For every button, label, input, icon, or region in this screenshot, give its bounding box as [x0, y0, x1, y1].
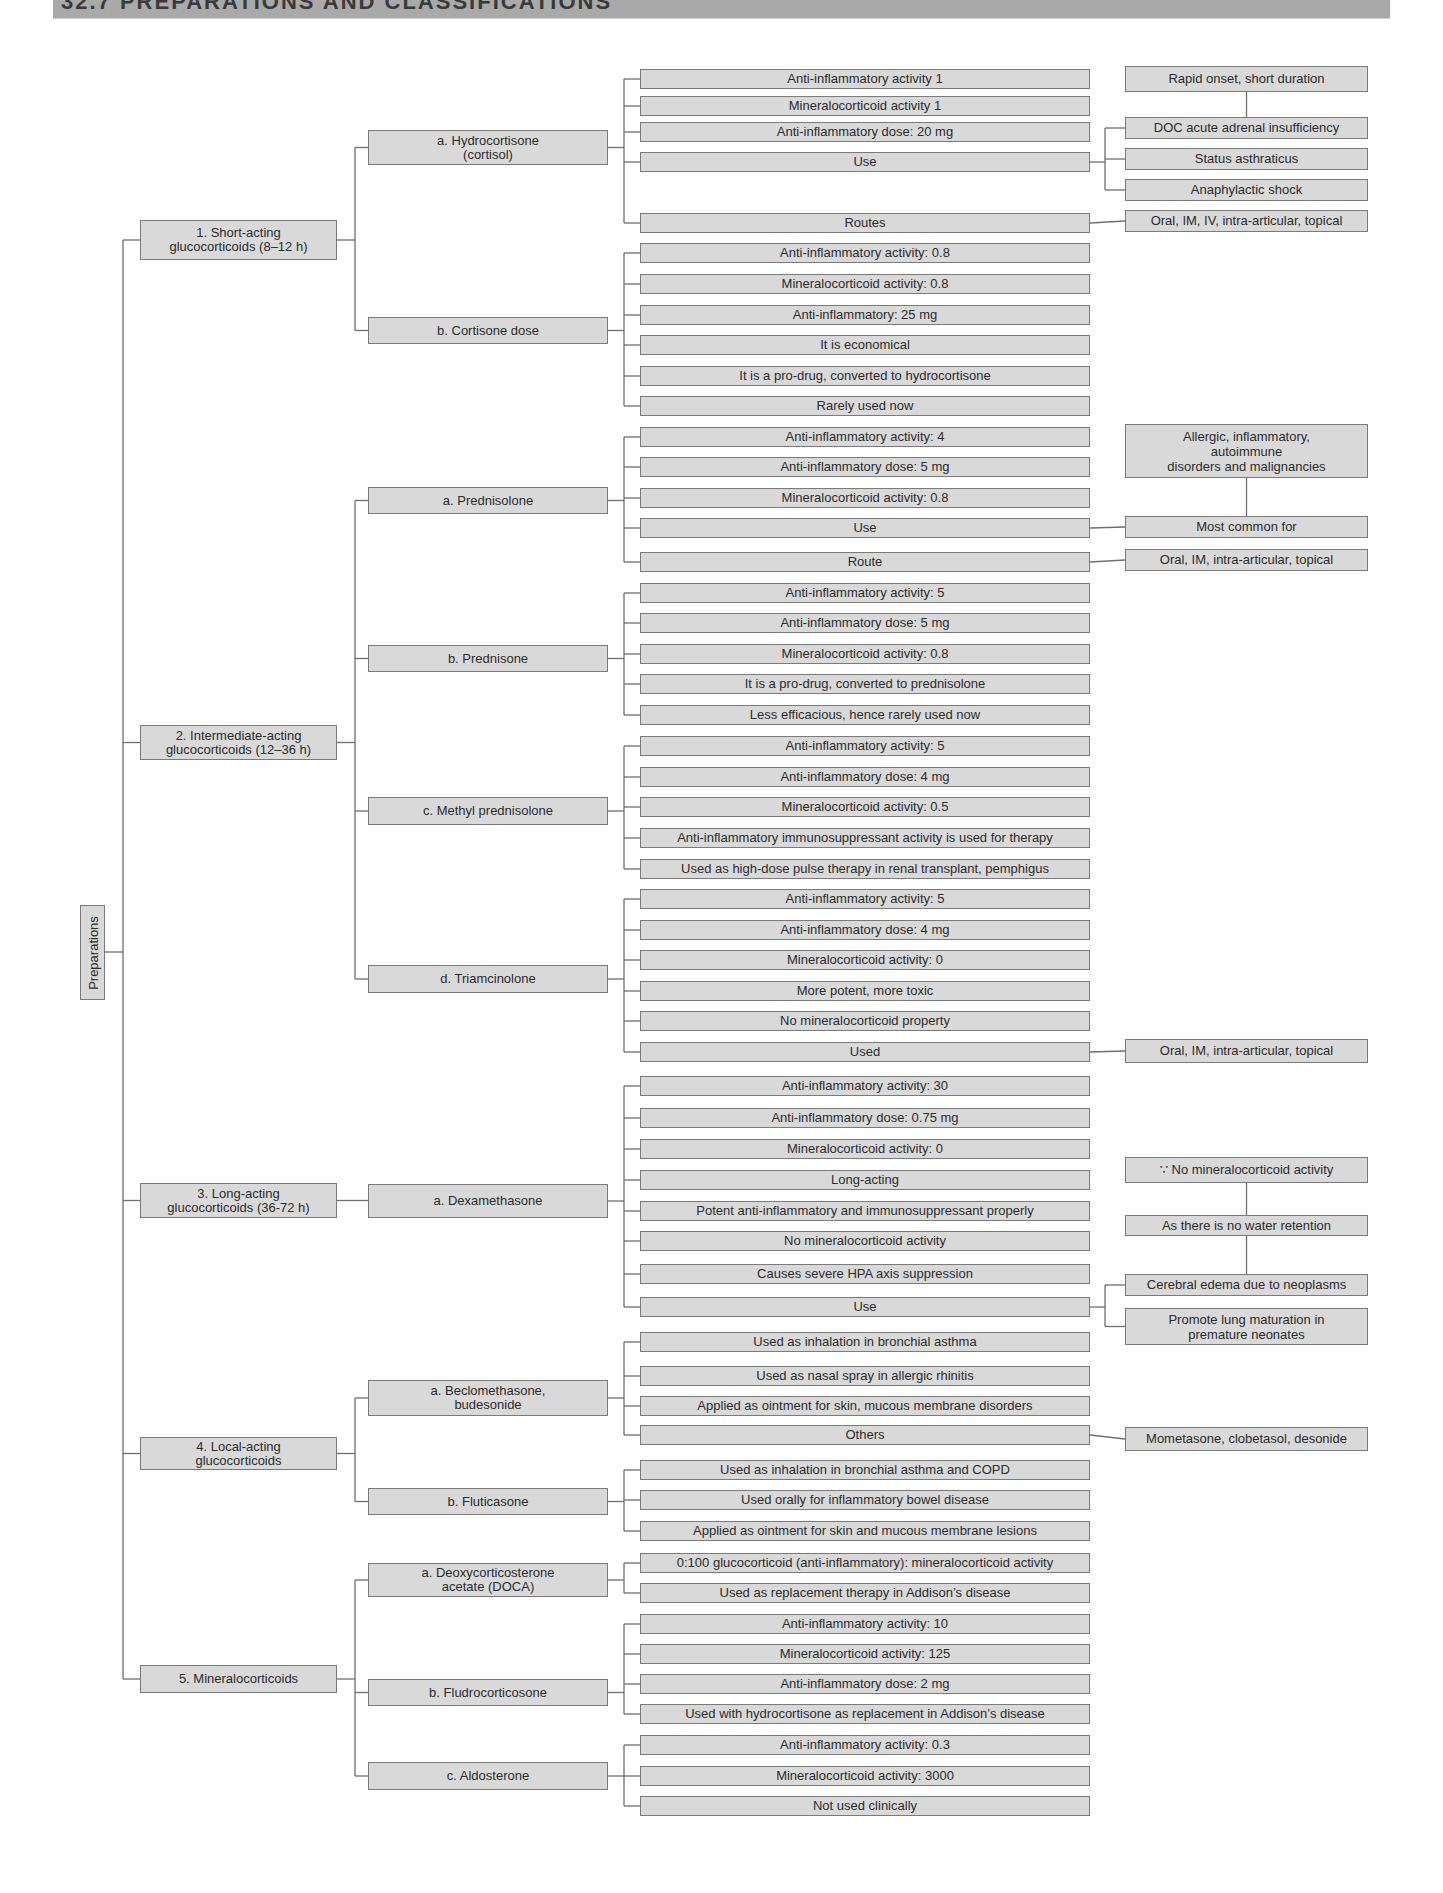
property-box: Use: [640, 152, 1090, 172]
property-box: Used: [640, 1042, 1090, 1062]
property-box: Less efficacious, hence rarely used now: [640, 705, 1090, 725]
property-box: Used as replacement therapy in Addison’s…: [640, 1583, 1090, 1603]
connector: [1090, 1435, 1125, 1439]
drug-box: b. Cortisone dose: [368, 317, 608, 344]
property-box: Long-acting: [640, 1170, 1090, 1190]
property-box: No mineralocorticoid property: [640, 1011, 1090, 1031]
property-box: Anti-inflammatory dose: 4 mg: [640, 767, 1090, 787]
property-box: Mineralocorticoid activity: 0.8: [640, 274, 1090, 294]
property-box: Anti-inflammatory dose: 4 mg: [640, 920, 1090, 940]
property-box: Mineralocorticoid activity: 3000: [640, 1766, 1090, 1786]
property-box: Mineralocorticoid activity: 0: [640, 1139, 1090, 1159]
drug-box: a. Beclomethasone, budesonide: [368, 1380, 608, 1416]
property-box: Causes severe HPA axis suppression: [640, 1264, 1090, 1284]
property-box: Anti-inflammatory activity: 4: [640, 427, 1090, 447]
note-box: Oral, IM, intra-articular, topical: [1125, 1039, 1368, 1063]
property-box: Used as inhalation in bronchial asthma: [640, 1332, 1090, 1352]
property-box: Anti-inflammatory activity: 0.3: [640, 1735, 1090, 1755]
note-box: Status asthraticus: [1125, 148, 1368, 170]
note-box: DOC acute adrenal insufficiency: [1125, 117, 1368, 139]
connector: [1090, 1051, 1125, 1052]
property-box: It is a pro-drug, converted to prednisol…: [640, 674, 1090, 694]
note-box: As there is no water retention: [1125, 1215, 1368, 1236]
drug-box: a. Dexamethasone: [368, 1184, 608, 1218]
property-box: Used with hydrocortisone as replacement …: [640, 1704, 1090, 1724]
drug-box: b. Fludrocorticosone: [368, 1679, 608, 1706]
note-box: Oral, IM, intra-articular, topical: [1125, 549, 1368, 571]
property-box: No mineralocorticoid activity: [640, 1231, 1090, 1251]
property-box: Route: [640, 552, 1090, 572]
property-box: Rarely used now: [640, 396, 1090, 416]
property-box: Anti-inflammatory activity: 5: [640, 583, 1090, 603]
property-box: Anti-inflammatory dose: 2 mg: [640, 1674, 1090, 1694]
group-box-3: 3. Long-acting glucocorticoids (36-72 h): [140, 1183, 337, 1218]
property-box: 0:100 glucocorticoid (anti-inflammatory)…: [640, 1553, 1090, 1573]
group-box-2: 2. Intermediate-acting glucocorticoids (…: [140, 725, 337, 760]
note-box: Anaphylactic shock: [1125, 179, 1368, 201]
property-box: Potent anti-inflammatory and immunosuppr…: [640, 1201, 1090, 1221]
property-box: Applied as ointment for skin, mucous mem…: [640, 1396, 1090, 1416]
property-box: It is economical: [640, 335, 1090, 355]
property-box: Mineralocorticoid activity: 0.8: [640, 644, 1090, 664]
note-box: Cerebral edema due to neoplasms: [1125, 1274, 1368, 1296]
note-box: Rapid onset, short duration: [1125, 66, 1368, 92]
property-box: Used as high-dose pulse therapy in renal…: [640, 859, 1090, 879]
note-box: Allergic, inflammatory, autoimmune disor…: [1125, 424, 1368, 478]
property-box: Mineralocorticoid activity: 0.8: [640, 488, 1090, 508]
property-box: Others: [640, 1425, 1090, 1445]
property-box: Anti-inflammatory activity: 10: [640, 1614, 1090, 1634]
property-box: Used as nasal spray in allergic rhinitis: [640, 1366, 1090, 1386]
drug-box: b. Fluticasone: [368, 1488, 608, 1515]
property-box: Used as inhalation in bronchial asthma a…: [640, 1460, 1090, 1480]
group-box-4: 4. Local-acting glucocorticoids: [140, 1437, 337, 1470]
property-box: Mineralocorticoid activity 1: [640, 96, 1090, 116]
property-box: Anti-inflammatory: 25 mg: [640, 305, 1090, 325]
property-box: Anti-inflammatory dose: 5 mg: [640, 457, 1090, 477]
property-box: Not used clinically: [640, 1796, 1090, 1816]
property-box: Use: [640, 518, 1090, 538]
property-box: Mineralocorticoid activity: 125: [640, 1644, 1090, 1664]
connector: [1090, 527, 1125, 528]
drug-box: a. Deoxycorticosterone acetate (DOCA): [368, 1563, 608, 1597]
property-box: Routes: [640, 213, 1090, 233]
connector: [1090, 560, 1125, 562]
drug-box: b. Prednisone: [368, 645, 608, 672]
property-box: Use: [640, 1297, 1090, 1317]
drug-box: a. Hydrocortisone (cortisol): [368, 130, 608, 165]
root-label: Preparations: [85, 916, 100, 990]
drug-box: c. Methyl prednisolone: [368, 797, 608, 825]
note-box: Promote lung maturation in premature neo…: [1125, 1308, 1368, 1345]
drug-box: a. Prednisolone: [368, 487, 608, 514]
property-box: Mineralocorticoid activity: 0: [640, 950, 1090, 970]
note-box: ∵ No mineralocorticoid activity: [1125, 1157, 1368, 1183]
property-box: Anti-inflammatory dose: 0.75 mg: [640, 1108, 1090, 1128]
property-box: Applied as ointment for skin and mucous …: [640, 1521, 1090, 1541]
note-box: Most common for: [1125, 516, 1368, 538]
note-box: Oral, IM, IV, intra-articular, topical: [1125, 210, 1368, 232]
property-box: Anti-inflammatory immunosuppressant acti…: [640, 828, 1090, 848]
group-box-1: 1. Short-acting glucocorticoids (8–12 h): [140, 220, 337, 260]
property-box: Anti-inflammatory activity: 30: [640, 1076, 1090, 1096]
property-box: Anti-inflammatory dose: 20 mg: [640, 122, 1090, 142]
group-box-5: 5. Mineralocorticoids: [140, 1665, 337, 1693]
connector: [1090, 221, 1125, 223]
property-box: Used orally for inflammatory bowel disea…: [640, 1490, 1090, 1510]
property-box: Anti-inflammatory activity 1: [640, 69, 1090, 89]
property-box: More potent, more toxic: [640, 981, 1090, 1001]
note-box: Mometasone, clobetasol, desonide: [1125, 1427, 1368, 1451]
property-box: Anti-inflammatory activity: 5: [640, 889, 1090, 909]
drug-box: d. Triamcinolone: [368, 965, 608, 993]
property-box: Anti-inflammatory dose: 5 mg: [640, 613, 1090, 633]
property-box: Mineralocorticoid activity: 0.5: [640, 797, 1090, 817]
drug-box: c. Aldosterone: [368, 1762, 608, 1790]
property-box: Anti-inflammatory activity: 5: [640, 736, 1090, 756]
root-preparations: Preparations: [80, 905, 105, 1000]
property-box: It is a pro-drug, converted to hydrocort…: [640, 366, 1090, 386]
property-box: Anti-inflammatory activity: 0.8: [640, 243, 1090, 263]
